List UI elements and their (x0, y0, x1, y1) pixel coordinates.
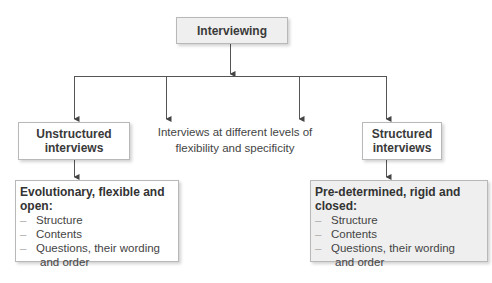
node-structured-interviews: Structured interviews (362, 122, 442, 160)
node-unstructured-interviews: Unstructured interviews (18, 122, 130, 160)
list-item-text: Structure (36, 213, 83, 227)
list-item-continuation: and order (20, 255, 174, 269)
node-label-line1: Structured (372, 127, 433, 141)
dash-bullet-icon: – (20, 241, 36, 255)
middle-annotation-line1: Interviews at different levels of (150, 124, 320, 140)
root-node-label: Interviewing (197, 24, 267, 38)
list-item: – Structure (20, 213, 174, 227)
list-item-text: Questions, their wording (331, 241, 455, 255)
dash-bullet-icon: – (315, 213, 331, 227)
details-heading: Evolutionary, flexible and open: (20, 185, 174, 213)
dash-bullet-icon: – (315, 241, 331, 255)
root-node-interviewing: Interviewing (176, 17, 288, 44)
dash-bullet-icon: – (315, 227, 331, 241)
list-item: – Structure (315, 213, 483, 227)
details-structured: Pre-determined, rigid and closed: – Stru… (310, 180, 488, 262)
node-label-line2: interviews (373, 141, 432, 155)
list-item-text: Contents (331, 227, 377, 241)
list-item-text: Structure (331, 213, 378, 227)
list-item-text: Questions, their wording (36, 241, 160, 255)
middle-annotation-line2: flexibility and specificity (150, 140, 320, 156)
list-item: – Contents (20, 227, 174, 241)
list-item-text: Contents (36, 227, 82, 241)
node-label-line1: Unstructured (36, 127, 111, 141)
node-label-line2: interviews (45, 141, 104, 155)
list-item: – Questions, their wording (315, 241, 483, 255)
middle-annotation: Interviews at different levels of flexib… (150, 124, 320, 156)
details-unstructured: Evolutionary, flexible and open: – Struc… (15, 180, 179, 262)
list-item: – Questions, their wording (20, 241, 174, 255)
list-item-continuation: and order (315, 255, 483, 269)
dash-bullet-icon: – (20, 227, 36, 241)
dash-bullet-icon: – (20, 213, 36, 227)
list-item: – Contents (315, 227, 483, 241)
details-heading: Pre-determined, rigid and closed: (315, 185, 483, 213)
